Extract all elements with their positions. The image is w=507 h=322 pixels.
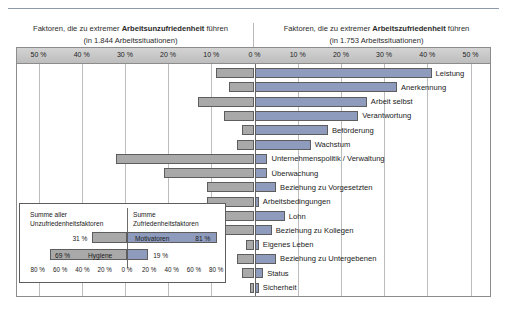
bar-dissatisfaction (242, 268, 255, 278)
bar-satisfaction (255, 140, 311, 150)
chart-page: Faktoren, die zu extremer Arbeitsunzufri… (0, 0, 507, 322)
bar-dissatisfaction (242, 125, 255, 135)
header-left-pre: Faktoren, die zu extremer (33, 24, 122, 33)
inset-axis-tick-label: 80 % (209, 266, 223, 273)
bar-category-label: Arbeit selbst (371, 97, 413, 106)
chart-bar-row: Anerkennung (17, 82, 490, 92)
bar-category-label: Sicherheit (263, 283, 297, 292)
header-left: Faktoren, die zu extremer Arbeitsunzufri… (8, 22, 253, 50)
bar-dissatisfaction (229, 82, 255, 92)
inset-axis-tick-label: 80 % (31, 266, 45, 273)
inset-bar-label: Motivatoren (135, 235, 169, 242)
header-left-post: führen (204, 24, 228, 33)
bar-category-label: Beziehung zu Vorgesetzten (280, 183, 372, 192)
bar-category-label: Beziehung zu Kollegen (276, 226, 354, 235)
x-axis-tick-label: 20 % (333, 51, 349, 58)
inset-axis-tick-label: 20 % (142, 266, 156, 273)
chart-bar-row: Arbeit selbst (17, 97, 490, 107)
bar-satisfaction (255, 97, 367, 107)
inset-axis-tick-label: 0 % (122, 266, 133, 273)
chart-bar-row: Leistung (17, 68, 490, 78)
header-right: Faktoren, die zu extremer Arbeitszufried… (254, 22, 499, 50)
inset-title-right: Summe Zufriedenheitsfaktoren (133, 211, 199, 228)
bar-satisfaction (255, 125, 328, 135)
bar-dissatisfaction (237, 254, 254, 264)
inset-axis-tick-label: 60 % (53, 266, 67, 273)
bar-dissatisfaction (216, 68, 255, 78)
bar-satisfaction (255, 283, 259, 293)
bar-category-label: Leistung (436, 69, 465, 78)
bar-satisfaction (255, 154, 268, 164)
header-right-subtitle: (in 1.753 Arbeitssituationen) (254, 35, 499, 47)
chart-bar-row: Unternehmenspolitik / Verwaltung (17, 154, 490, 164)
bar-dissatisfaction (198, 97, 254, 107)
header-left-strong: Arbeitsunzufriedenheit (122, 24, 205, 33)
top-divider-rule (8, 8, 499, 9)
bar-category-label: Lohn (289, 212, 306, 221)
x-axis-tick-label: 30 % (376, 51, 392, 58)
bar-satisfaction (255, 211, 285, 221)
bar-satisfaction (255, 268, 264, 278)
bar-satisfaction (255, 68, 432, 78)
x-axis-tick-label: 30 % (117, 51, 133, 58)
bar-dissatisfaction (164, 168, 255, 178)
header-left-subtitle: (in 1.844 Arbeitssituationen) (8, 35, 253, 47)
x-axis-tick-label: 10 % (203, 51, 219, 58)
chart-headers: Faktoren, die zu extremer Arbeitsunzufri… (8, 22, 499, 50)
inset-bar-negative (92, 232, 127, 243)
bar-dissatisfaction (224, 225, 254, 235)
bar-satisfaction (255, 111, 359, 121)
x-axis-tick-label: 50 % (31, 51, 47, 58)
chart-bar-row: Wachstum (17, 140, 490, 150)
bar-satisfaction (255, 82, 398, 92)
bar-category-label: Arbeitsbedingungen (263, 197, 331, 206)
bar-category-label: Beförderung (332, 126, 374, 135)
chart-bar-row: Verantwortung (17, 111, 490, 121)
bar-category-label: Anerkennung (401, 83, 446, 92)
x-axis-tick-band: 50 %40 %30 %20 %10 %0 %10 %20 %30 %40 %5… (17, 48, 490, 64)
inset-value-positive: 19 % (153, 252, 168, 259)
bar-satisfaction (255, 225, 272, 235)
bar-dissatisfaction (207, 182, 255, 192)
bar-dissatisfaction (237, 140, 254, 150)
inset-axis-tick-label: 60 % (187, 266, 201, 273)
summary-inset-box: Summe aller UnzufriedenheitsfaktorenSumm… (19, 203, 226, 283)
x-axis-tick-label: 40 % (74, 51, 90, 58)
inset-axis-tick-label: 40 % (75, 266, 89, 273)
bar-satisfaction (255, 182, 277, 192)
header-right-strong: Arbeitszufriedenheit (372, 24, 445, 33)
header-right-post: führen (446, 24, 470, 33)
bar-category-label: Wachstum (315, 140, 351, 149)
bar-satisfaction (255, 168, 268, 178)
inset-axis-tick-label: 20 % (98, 266, 112, 273)
bar-category-label: Überwachung (271, 169, 318, 178)
chart-bar-row: Überwachung (17, 168, 490, 178)
chart-bar-row: Sicherheit (17, 283, 490, 293)
header-right-pre: Faktoren, die zu extremer (284, 24, 373, 33)
x-axis-tick-label: 20 % (160, 51, 176, 58)
bar-category-label: Status (267, 269, 289, 278)
inset-title-left: Summe aller Unzufriedenheitsfaktoren (30, 211, 103, 228)
inset-value-negative: 69 % (55, 252, 70, 259)
bar-dissatisfaction (246, 240, 255, 250)
x-axis-tick-label: 0 % (248, 51, 260, 58)
x-axis-tick-label: 40 % (419, 51, 435, 58)
x-axis-tick-label: 50 % (463, 51, 479, 58)
x-axis-tick-label: 10 % (290, 51, 306, 58)
chart-bar-row: Beförderung (17, 125, 490, 135)
bar-category-label: Beziehung zu Untergebenen (280, 254, 376, 263)
bar-dissatisfaction (116, 154, 254, 164)
chart-plot-frame: 50 %40 %30 %20 %10 %0 %10 %20 %30 %40 %5… (16, 47, 491, 297)
inset-bar-positive (127, 249, 148, 260)
inset-axis-tick-label: 40 % (164, 266, 178, 273)
inset-value-positive: 81 % (195, 235, 210, 242)
bar-satisfaction (255, 254, 277, 264)
inset-value-negative: 31 % (72, 235, 87, 242)
bar-category-label: Unternehmenspolitik / Verwaltung (271, 154, 384, 163)
bar-satisfaction (255, 197, 259, 207)
bar-category-label: Verantwortung (362, 111, 411, 120)
bar-satisfaction (255, 240, 259, 250)
inset-bar-label: Hygiene (88, 252, 112, 259)
bar-dissatisfaction (224, 111, 254, 121)
bar-category-label: Eigenes Leben (263, 240, 314, 249)
